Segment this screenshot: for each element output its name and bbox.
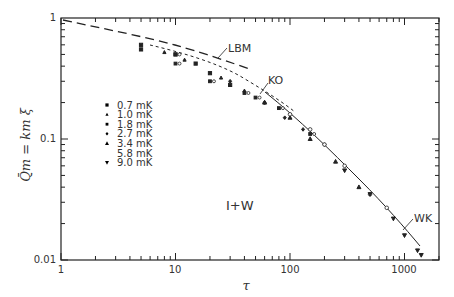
data-point [139, 43, 142, 46]
data-point [288, 113, 292, 117]
data-point [308, 128, 312, 132]
data-point [308, 137, 312, 141]
data-point [209, 80, 216, 83]
data-point [254, 96, 261, 99]
data-point [139, 48, 142, 51]
data-point [163, 51, 166, 54]
data-point [263, 100, 267, 104]
data-point [385, 206, 389, 210]
leader-lbm [218, 48, 227, 58]
y-tick-0.01: 0.01 [34, 254, 56, 265]
x-tick-100: 100 [280, 264, 299, 275]
data-point [183, 58, 186, 61]
data-point [343, 164, 347, 168]
x-axis-label: τ [242, 278, 250, 293]
y-tick-0.1: 0.1 [40, 133, 56, 144]
data-point [419, 253, 423, 257]
data-point [174, 62, 181, 65]
data-point [302, 128, 305, 132]
x-tick-10: 10 [169, 264, 182, 275]
data-point [208, 72, 211, 75]
data-point [278, 107, 285, 110]
data-point [229, 79, 232, 83]
data-point [416, 249, 420, 253]
data-point [391, 217, 395, 221]
data-point [334, 159, 338, 163]
x-tick-1000: 1000 [391, 264, 416, 275]
data-point [403, 234, 407, 238]
data-point [219, 76, 222, 79]
legend: 0.7 mK1.0 mK1.8 mK2.7 mK3.4 mK5.8 mK9.0 … [105, 100, 153, 169]
data-point [357, 185, 361, 189]
x-tick-1: 1 [58, 264, 64, 275]
chart: 1 10 100 1000 1 0.1 0.01 τ Q̄m = km ξ LB… [0, 0, 454, 297]
annotation-i-plus-w: I+W [226, 198, 254, 213]
legend-label: 9.0 mK [117, 157, 153, 168]
curve-lbm [63, 20, 252, 70]
label-wk: WK [414, 212, 433, 225]
leader-wk [403, 219, 413, 230]
label-ko: KO [268, 74, 284, 87]
label-lbm: LBM [228, 42, 251, 55]
y-axis-label: Q̄m = km ξ [18, 107, 33, 181]
legend-item: 9.0 mK [105, 157, 153, 168]
data-point [194, 62, 197, 65]
data-point [283, 116, 286, 120]
data-point [323, 143, 327, 147]
y-tick-1: 1 [50, 12, 56, 23]
data-point [343, 169, 347, 173]
